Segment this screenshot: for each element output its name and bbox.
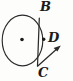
geometry-canvas xyxy=(0,0,73,81)
geometry-figure: B C D xyxy=(0,0,73,81)
point-d-dot xyxy=(42,38,45,41)
point-label-d: D xyxy=(48,31,59,44)
point-label-b: B xyxy=(40,0,51,13)
point-label-c: C xyxy=(38,66,48,79)
center-point-dot xyxy=(20,38,24,42)
